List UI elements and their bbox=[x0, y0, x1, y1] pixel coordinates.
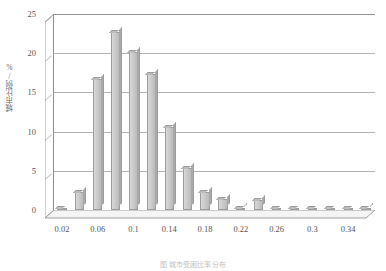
x-tick-label: 0.02 bbox=[55, 224, 70, 234]
bar bbox=[129, 52, 138, 210]
bar bbox=[344, 208, 353, 210]
bar-side-face bbox=[370, 203, 373, 206]
bar bbox=[236, 208, 245, 210]
bar-top-face bbox=[91, 77, 101, 80]
bar-side-face bbox=[101, 74, 104, 206]
x-tick-label: 0.34 bbox=[341, 224, 356, 234]
bar bbox=[75, 192, 84, 210]
bar-top-face bbox=[127, 50, 137, 53]
y-tick-label: 5 bbox=[14, 166, 36, 176]
x-tick-label: 0.26 bbox=[269, 224, 284, 234]
plot-area bbox=[45, 14, 375, 218]
bar-side-face bbox=[262, 195, 265, 206]
y-tick-label: 0 bbox=[14, 205, 36, 215]
bar bbox=[183, 168, 192, 210]
y-tick-label: 20 bbox=[14, 48, 36, 58]
figure-caption: 图 城市受困比率 分布 bbox=[0, 259, 386, 269]
bar bbox=[147, 74, 156, 210]
bar-side-face bbox=[155, 69, 158, 206]
bar-top-face bbox=[324, 206, 334, 209]
bar-top-face bbox=[109, 30, 119, 33]
bar-top-face bbox=[198, 190, 208, 193]
bar-top-face bbox=[288, 206, 298, 209]
y-tick-label: 15 bbox=[14, 87, 36, 97]
x-tick-label: 0.14 bbox=[162, 224, 177, 234]
bar-side-face bbox=[244, 203, 247, 206]
bar-top-face bbox=[163, 125, 173, 128]
bar bbox=[326, 208, 335, 210]
bar-top-face bbox=[359, 206, 369, 209]
bar-top-face bbox=[342, 206, 352, 209]
bar-side-face bbox=[137, 47, 140, 206]
bar-top-face bbox=[145, 72, 155, 75]
bar-side-face bbox=[83, 187, 86, 206]
bar bbox=[290, 208, 299, 210]
bar-top-face bbox=[216, 197, 226, 200]
chart-figure: 城市比例/% 0510152025 0.020.060.10.140.180.2… bbox=[0, 0, 386, 271]
bar-top-face bbox=[234, 206, 244, 209]
bar-side-face bbox=[173, 122, 176, 206]
bar bbox=[361, 208, 370, 210]
bar-side-face bbox=[119, 27, 122, 206]
bar bbox=[93, 79, 102, 210]
bar bbox=[165, 127, 174, 210]
bar bbox=[272, 208, 281, 210]
y-tick-label: 10 bbox=[14, 127, 36, 137]
bar-side-face bbox=[66, 203, 69, 206]
bar-side-face bbox=[227, 194, 230, 206]
y-tick-label: 25 bbox=[14, 9, 36, 19]
bar bbox=[111, 32, 120, 210]
bar bbox=[308, 208, 317, 210]
bar-top-face bbox=[252, 198, 262, 201]
bar-top-face bbox=[55, 206, 65, 209]
y-axis-tick-labels: 0510152025 bbox=[14, 0, 36, 271]
x-tick-label: 0.3 bbox=[307, 224, 318, 234]
bar-side-face bbox=[191, 163, 194, 206]
bar-top-face bbox=[306, 206, 316, 209]
bar bbox=[254, 200, 263, 210]
bar-top-face bbox=[181, 166, 191, 169]
bar bbox=[218, 199, 227, 210]
bar bbox=[57, 208, 66, 210]
x-tick-label: 0.18 bbox=[198, 224, 213, 234]
bar-top-face bbox=[270, 206, 280, 209]
x-tick-label: 0.22 bbox=[233, 224, 248, 234]
x-tick-label: 0.1 bbox=[128, 224, 139, 234]
bar-side-face bbox=[209, 187, 212, 206]
bar bbox=[200, 192, 209, 210]
bar-series bbox=[53, 14, 375, 210]
bar-top-face bbox=[73, 190, 83, 193]
x-tick-label: 0.06 bbox=[90, 224, 105, 234]
